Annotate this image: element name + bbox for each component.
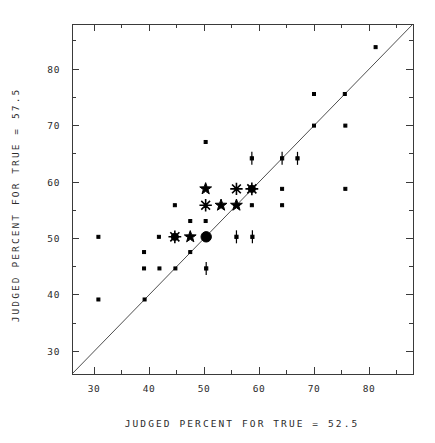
x-axis-tick-labels: 304050607080 <box>88 383 376 394</box>
data-point-dot <box>174 267 177 270</box>
data-point-asterisk <box>199 199 211 211</box>
x-axis-major-ticks <box>94 24 369 374</box>
data-point-dot <box>313 124 316 127</box>
data-point-dot-asterisk <box>168 230 181 243</box>
x-tick-label: 70 <box>308 383 321 394</box>
data-point-bigdot <box>201 232 211 242</box>
data-point-bar <box>235 230 238 243</box>
data-point-star <box>184 231 196 242</box>
point-bar-core <box>235 235 238 238</box>
point-dot <box>189 251 192 254</box>
point-star <box>184 231 196 242</box>
y-tick-label: 30 <box>47 346 60 357</box>
point-dot-core <box>248 185 255 192</box>
y-tick-label: 80 <box>47 64 60 75</box>
plot-canvas: 304050607080 304050607080 JUDGED PERCENT… <box>0 0 435 443</box>
data-point-dot <box>189 251 192 254</box>
point-dot <box>173 204 176 207</box>
point-bar-core <box>250 157 253 160</box>
data-point-dot <box>97 298 100 301</box>
point-dot <box>143 267 146 270</box>
y-axis-major-ticks <box>72 69 413 351</box>
point-dot <box>313 124 316 127</box>
y-axis-tick-labels: 304050607080 <box>47 64 60 357</box>
point-dot <box>158 267 161 270</box>
data-point-dot <box>143 251 146 254</box>
data-point-bar <box>205 262 208 275</box>
data-point-dot <box>173 204 176 207</box>
data-point-bar <box>281 152 284 165</box>
data-point-bar <box>251 230 254 243</box>
point-dot <box>189 220 192 223</box>
y-tick-label: 60 <box>47 177 60 188</box>
data-point-dot <box>143 267 146 270</box>
point-bar-core <box>281 157 284 160</box>
x-tick-label: 30 <box>88 383 101 394</box>
data-point-dot <box>157 235 160 238</box>
data-point-dot <box>204 140 207 143</box>
point-dot <box>374 46 377 49</box>
x-tick-label: 50 <box>198 383 211 394</box>
point-dot <box>313 93 316 96</box>
point-dot <box>97 298 100 301</box>
data-point-dot <box>143 298 146 301</box>
point-bar-core <box>251 235 254 238</box>
data-point-dot <box>344 187 347 190</box>
point-bigdot <box>201 232 211 242</box>
point-dot <box>344 124 347 127</box>
point-dot <box>143 298 146 301</box>
point-dot <box>204 220 207 223</box>
data-point-bar <box>250 152 253 165</box>
point-dot <box>143 251 146 254</box>
point-asterisk <box>230 183 242 195</box>
y-axis-title: JUDGED PERCENT FOR TRUE = 57.5 <box>10 88 21 323</box>
y-tick-label: 50 <box>47 233 60 244</box>
point-dot <box>343 93 346 96</box>
x-tick-label: 40 <box>143 383 156 394</box>
point-dot <box>250 204 253 207</box>
point-dot <box>204 140 207 143</box>
data-point-dot <box>250 204 253 207</box>
data-point-dot <box>344 124 347 127</box>
identity-reference-line <box>72 24 413 374</box>
data-point-bar <box>296 152 299 165</box>
data-point-dot <box>343 93 346 96</box>
point-dot <box>344 187 347 190</box>
y-tick-label: 70 <box>47 120 60 131</box>
data-point-asterisk <box>230 183 242 195</box>
data-point-dot <box>204 220 207 223</box>
point-dot-core <box>171 233 178 240</box>
point-star <box>200 183 212 194</box>
data-point-dot <box>281 187 284 190</box>
point-dot <box>281 204 284 207</box>
data-point-dot <box>97 235 100 238</box>
point-dot <box>97 235 100 238</box>
data-point-markers <box>97 46 377 301</box>
point-bar-core <box>205 267 208 270</box>
data-point-dot <box>374 46 377 49</box>
point-star <box>215 199 227 210</box>
point-bar-core <box>296 157 299 160</box>
point-asterisk <box>199 199 211 211</box>
identity-line <box>72 24 413 374</box>
data-point-dot <box>189 220 192 223</box>
data-point-dot <box>281 204 284 207</box>
x-tick-label: 80 <box>363 383 376 394</box>
data-point-dot <box>158 267 161 270</box>
x-tick-label: 60 <box>253 383 266 394</box>
y-tick-label: 40 <box>47 289 60 300</box>
x-axis-title: JUDGED PERCENT FOR TRUE = 52.5 <box>125 418 360 429</box>
point-dot <box>157 235 160 238</box>
point-dot <box>281 187 284 190</box>
data-point-dot-asterisk <box>245 182 258 195</box>
data-point-star <box>200 183 212 194</box>
scatter-plot-figure: 304050607080 304050607080 JUDGED PERCENT… <box>0 0 435 443</box>
data-point-star <box>215 199 227 210</box>
y-axis-minor-ticks <box>72 41 413 323</box>
data-point-dot <box>313 93 316 96</box>
point-dot <box>174 267 177 270</box>
x-axis-minor-ticks <box>122 24 397 374</box>
